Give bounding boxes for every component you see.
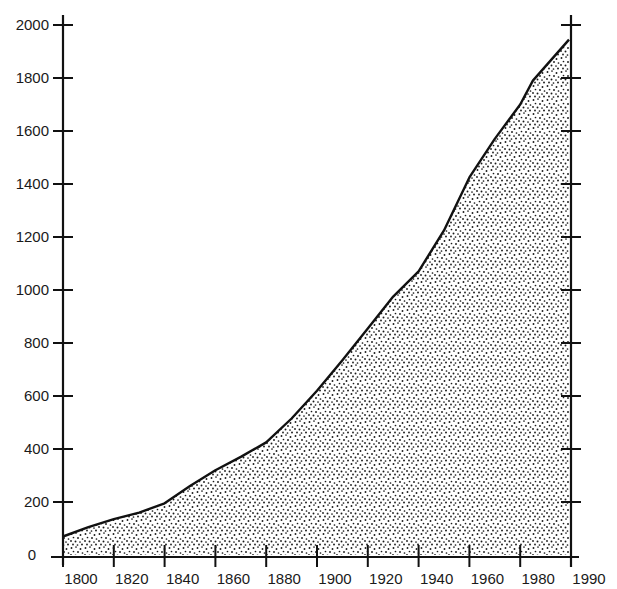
y-tick-label: 1000 <box>16 281 49 298</box>
y-tick-label: 600 <box>24 387 49 404</box>
x-tick-label: 1960 <box>471 570 504 587</box>
area-chart: 0200400600800100012001400160018002000 18… <box>0 0 617 589</box>
stipple-area-fill <box>63 40 569 555</box>
y-tick-label: 1600 <box>16 122 49 139</box>
x-tick-label: 1840 <box>166 570 199 587</box>
x-tick-label: 1800 <box>64 570 97 587</box>
y-tick-label: 1800 <box>16 69 49 86</box>
y-tick-label: 800 <box>24 334 49 351</box>
y-tick-label: 2000 <box>16 16 49 33</box>
x-tick-label: 1860 <box>217 570 250 587</box>
x-tick-label: 1820 <box>115 570 148 587</box>
x-tick-label: 1940 <box>420 570 453 587</box>
x-tick-label: 1990 <box>572 570 605 587</box>
data-area <box>63 40 569 555</box>
x-tick-label: 1980 <box>522 570 555 587</box>
y-tick-label: 200 <box>24 493 49 510</box>
y-tick-label: 1400 <box>16 175 49 192</box>
x-tick-label: 1900 <box>318 570 351 587</box>
x-tick-label: 1880 <box>268 570 301 587</box>
x-tick-label: 1920 <box>369 570 402 587</box>
y-tick-label: 1200 <box>16 228 49 245</box>
y-tick-label: 0 <box>28 546 36 563</box>
y-axis: 0200400600800100012001400160018002000 <box>16 15 73 565</box>
y-tick-label: 400 <box>24 440 49 457</box>
